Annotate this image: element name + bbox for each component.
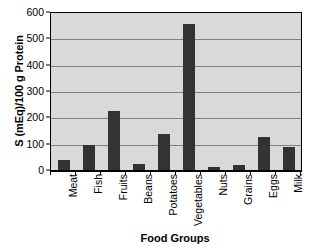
x-axis-title: Food Groups (50, 232, 300, 244)
y-axis-tick-mark (46, 38, 50, 39)
y-axis-tick-mark (46, 12, 50, 13)
x-label-slot: Milk (275, 171, 300, 229)
x-axis-tick-mark (300, 171, 301, 175)
y-axis-tick-label: 100 (14, 138, 44, 150)
x-axis-category-label: Milk (293, 174, 304, 193)
x-label-slot: Grains (225, 171, 250, 229)
y-axis-tick-mark (46, 170, 50, 171)
x-axis-category-labels: MeatFishFruitsBeansPotatoesVegetablesNut… (50, 171, 300, 229)
bar-slot (51, 13, 76, 171)
plot-area (50, 12, 302, 172)
bar (108, 111, 120, 171)
x-axis-tick-mark (225, 171, 226, 175)
bar-slot (226, 13, 251, 171)
x-label-slot: Meat (50, 171, 75, 229)
x-label-slot: Potatoes (150, 171, 175, 229)
bar-slot (126, 13, 151, 171)
x-label-slot: Nuts (200, 171, 225, 229)
bar (258, 137, 270, 171)
x-label-slot: Vegetables (175, 171, 200, 229)
y-axis-tick-label: 600 (14, 6, 44, 18)
y-axis-tick-label: 200 (14, 111, 44, 123)
x-axis-tick-mark (125, 171, 126, 175)
bar-slot (176, 13, 201, 171)
x-label-slot: Fish (75, 171, 100, 229)
bar (283, 147, 295, 171)
x-axis-tick-mark (200, 171, 201, 175)
x-label-slot: Beans (125, 171, 150, 229)
bar-slot (151, 13, 176, 171)
y-axis-tick-label: 400 (14, 59, 44, 71)
y-axis-tick-labels: 0100200300400500600 (14, 12, 44, 170)
x-label-slot: Eggs (250, 171, 275, 229)
bars-layer (51, 13, 301, 171)
x-axis-tick-mark (250, 171, 251, 175)
y-axis-tick-label: 0 (14, 164, 44, 176)
bar-chart: S (mEq)/100 g Protein 010020030040050060… (0, 0, 313, 250)
y-axis-tick-mark (46, 143, 50, 144)
x-axis-tick-mark (175, 171, 176, 175)
y-axis-tick-mark (46, 64, 50, 65)
y-axis-tick-mark (46, 117, 50, 118)
y-axis-tick-mark (46, 91, 50, 92)
bar-slot (276, 13, 301, 171)
x-label-slot: Fruits (100, 171, 125, 229)
bar (83, 145, 95, 171)
bar-slot (201, 13, 226, 171)
bar (158, 134, 170, 171)
x-axis-tick-mark (75, 171, 76, 175)
bar-slot (101, 13, 126, 171)
x-axis-tick-mark (100, 171, 101, 175)
y-axis-tick-label: 300 (14, 85, 44, 97)
y-axis-tick-label: 500 (14, 32, 44, 44)
x-axis-tick-mark (275, 171, 276, 175)
x-axis-tick-mark (50, 171, 51, 175)
bar-slot (76, 13, 101, 171)
x-axis-tick-mark (150, 171, 151, 175)
bar (183, 24, 195, 171)
bar-slot (251, 13, 276, 171)
